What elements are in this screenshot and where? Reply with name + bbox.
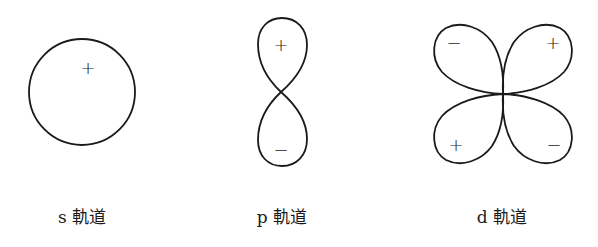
p-minus-sign: − — [273, 141, 288, 159]
p-plus-sign: + — [273, 36, 288, 54]
d-minus-sign-upper-left: − — [446, 34, 461, 52]
d-plus-sign-lower-left: + — [448, 136, 463, 154]
d-plus-sign-upper-right: + — [545, 34, 560, 52]
p-orbital-label: p 軌道 — [257, 206, 307, 228]
s-orbital-label: s 軌道 — [58, 206, 106, 228]
s-orbital-shape — [29, 39, 135, 145]
d-minus-sign-lower-right: − — [546, 136, 561, 154]
s-plus-sign: + — [80, 59, 95, 77]
d-orbital-label: d 軌道 — [477, 206, 527, 228]
